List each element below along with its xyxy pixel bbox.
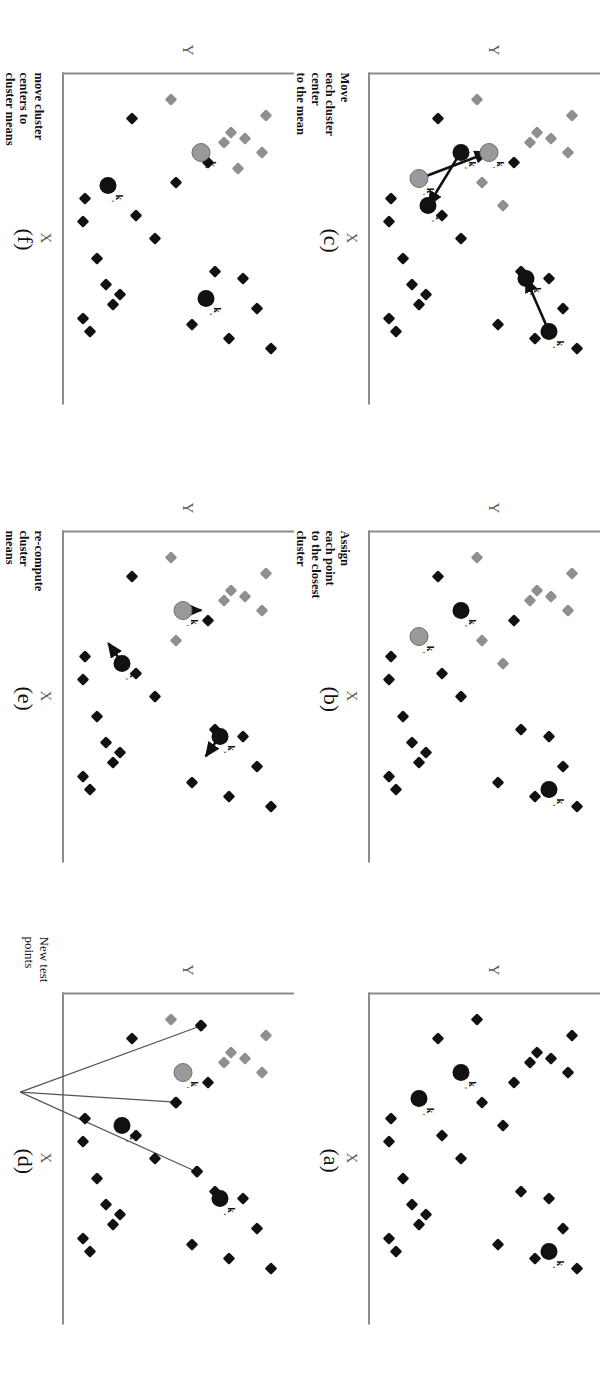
arrow-layer-a [368, 992, 600, 1324]
data-point-marker [566, 567, 579, 580]
data-point-marker [190, 1165, 203, 1178]
y-axis-line [368, 530, 600, 532]
data-point-marker [561, 603, 574, 616]
data-point-marker [125, 1032, 138, 1045]
cluster-center-label: k₂ [464, 1081, 478, 1089]
data-point-marker [260, 567, 273, 580]
y-axis-label-e: Y [179, 502, 196, 513]
data-point-marker [223, 331, 236, 344]
data-point-marker [406, 736, 419, 749]
data-point-marker [237, 1191, 250, 1204]
data-point-marker [83, 325, 96, 338]
data-point-marker [107, 756, 120, 769]
cluster-center-marker [192, 142, 211, 161]
data-point-marker [496, 1118, 509, 1131]
data-point-marker [383, 673, 396, 686]
arrow-layer-d [62, 992, 294, 1324]
data-point-marker [389, 783, 402, 796]
test-point-leader-line [20, 1092, 175, 1102]
data-point-marker [186, 1238, 199, 1251]
data-point-marker [515, 1185, 528, 1198]
cluster-center-marker [452, 601, 469, 618]
y-axis-label-a: Y [485, 964, 502, 975]
data-point-marker [420, 1208, 433, 1221]
plot-area-a: k₁k₂k₃ [368, 992, 600, 1324]
data-point-marker [232, 162, 245, 175]
data-point-marker [475, 633, 488, 646]
data-point-marker [77, 311, 90, 324]
data-point-marker [165, 92, 178, 105]
data-point-marker [260, 1029, 273, 1042]
data-point-marker [202, 1075, 215, 1088]
data-point-marker [209, 265, 222, 278]
data-point-marker [570, 1261, 583, 1274]
data-point-marker [531, 583, 544, 596]
figure-root: k₁k₂k₃YX(a)k₁k₂k₃YX(b)Assign each point … [0, 0, 616, 1375]
x-axis-line [368, 72, 370, 404]
cluster-center-label: k₃ [223, 745, 237, 753]
data-point-marker [90, 1172, 103, 1185]
cluster-center-marker [479, 142, 498, 161]
data-point-marker [225, 125, 238, 138]
cluster-center-marker [197, 289, 214, 306]
data-point-marker [454, 690, 467, 703]
data-point-marker [237, 729, 250, 742]
data-point-marker [475, 1095, 488, 1108]
cluster-center-marker [411, 1090, 428, 1107]
x-axis-label-e: X [37, 690, 54, 701]
x-axis-label-b: X [343, 690, 360, 701]
data-point-marker [79, 650, 92, 663]
data-point-marker [130, 208, 143, 221]
cluster-center-marker [211, 727, 228, 744]
data-point-marker [223, 1251, 236, 1264]
x-axis-line [62, 72, 64, 404]
data-point-marker [570, 799, 583, 812]
y-axis-line [62, 992, 294, 994]
panel-letter-c: (c) [318, 228, 344, 252]
data-point-marker [508, 1075, 521, 1088]
data-point-marker [543, 729, 556, 742]
cluster-center-label: k₁ [204, 161, 218, 169]
panel-a: k₁k₂k₃YX(a) [320, 930, 610, 1360]
cluster-center-label: k₂ [125, 1134, 139, 1142]
arrow-layer-b [368, 530, 600, 862]
data-point-marker [406, 278, 419, 291]
data-point-marker [471, 550, 484, 563]
new-test-points-annotation: New test points [22, 936, 52, 982]
data-point-marker [492, 776, 505, 789]
cluster-center-label: k₂ [464, 619, 478, 627]
panel-caption-f: move cluster centers to cluster means [3, 72, 47, 145]
data-point-marker [264, 799, 277, 812]
plot-area-d: k₁k₂k₃ [62, 992, 294, 1324]
data-point-marker [383, 1231, 396, 1244]
cluster-center-marker [540, 780, 557, 797]
data-point-marker [383, 311, 396, 324]
cluster-center-label: k₃ [552, 340, 566, 348]
plot-area-f: k₁k₂k₃ [62, 72, 294, 404]
panel-e: k₁k₂k₃YX(e)re-compute cluster means [14, 468, 304, 898]
data-point-marker [77, 215, 90, 228]
cluster-center-label: k₂ [464, 161, 478, 169]
y-axis-label-f: Y [179, 44, 196, 55]
panel-c: k₁k₁k₂k₂k₃k₃YX(c)Move each cluster cente… [320, 10, 610, 440]
data-point-marker [529, 331, 542, 344]
data-point-marker [557, 759, 570, 772]
data-point-marker [545, 132, 558, 145]
data-point-marker [239, 132, 252, 145]
data-point-marker [436, 1128, 449, 1141]
data-point-marker [561, 145, 574, 158]
data-point-marker [431, 1032, 444, 1045]
data-point-marker [239, 590, 252, 603]
data-point-marker [492, 1238, 505, 1251]
cluster-center-label: k₃ [223, 1207, 237, 1215]
cluster-center-marker [452, 1063, 469, 1080]
data-point-marker [496, 656, 509, 669]
data-point-marker [148, 1152, 161, 1165]
data-point-marker [413, 298, 426, 311]
data-point-marker [83, 783, 96, 796]
cluster-center-marker [173, 1062, 192, 1081]
x-axis-line [62, 992, 64, 1324]
data-point-marker [508, 155, 521, 168]
panel-letter-b: (b) [318, 686, 344, 712]
data-point-marker [83, 1245, 96, 1258]
